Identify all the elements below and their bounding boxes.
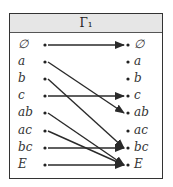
domain-point — [43, 77, 46, 80]
domain-element-label: ac — [18, 124, 32, 136]
codomain-element-label: E — [134, 158, 143, 170]
domain-point — [43, 43, 46, 46]
codomain-element-label: a — [134, 55, 141, 67]
domain-point — [43, 111, 46, 114]
codomain-point — [126, 94, 129, 97]
domain-element-label: ∅ — [18, 38, 28, 50]
codomain-element-label: b — [134, 72, 142, 84]
codomain-point — [126, 60, 129, 63]
codomain-point — [126, 163, 129, 166]
mapping-arrow — [48, 79, 124, 148]
domain-point — [43, 94, 46, 97]
codomain-element-label: ∅ — [134, 38, 144, 50]
codomain-point — [126, 111, 129, 114]
codomain-element-label: ac — [134, 124, 148, 136]
domain-point — [43, 146, 46, 149]
domain-element-label: bc — [18, 141, 32, 153]
codomain-point — [126, 43, 129, 46]
domain-element-label: ab — [18, 106, 33, 118]
domain-element-label: b — [18, 72, 26, 84]
codomain-element-label: ab — [134, 106, 149, 118]
codomain-point — [126, 146, 129, 149]
domain-point — [43, 60, 46, 63]
codomain-point — [126, 129, 129, 132]
domain-element-label: a — [18, 55, 25, 67]
domain-point — [43, 129, 46, 132]
domain-point — [43, 163, 46, 166]
domain-element-label: E — [18, 158, 27, 170]
codomain-element-label: c — [134, 89, 141, 101]
mapping-arrow — [48, 113, 124, 165]
codomain-element-label: bc — [134, 141, 148, 153]
mapping-arrow — [48, 62, 124, 113]
domain-element-label: c — [18, 89, 25, 101]
codomain-point — [126, 77, 129, 80]
